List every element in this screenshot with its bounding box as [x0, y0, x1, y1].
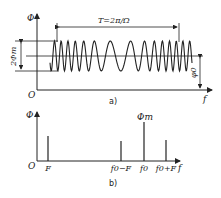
figure-a: Φ O f T=2π/Ω 2Φm φ0 a) — [9, 13, 212, 106]
period-label: T=2π/Ω — [98, 16, 130, 25]
spectral-line-label: f0 — [139, 164, 148, 173]
spectral-lines: Ff0−Ff0f0+F — [44, 122, 176, 173]
x-axis-label-b: f — [177, 163, 183, 173]
spectral-line-label: f0−F — [110, 164, 132, 173]
origin-label-a: O — [28, 90, 36, 100]
fm-spectrum-diagram: Φ O f T=2π/Ω 2Φm φ0 a) Φ O f Φm Ff0−Ff0f… — [0, 0, 221, 198]
caption-b: b) — [109, 179, 117, 188]
caption-a: a) — [109, 97, 117, 106]
offset-label: φ0 — [189, 67, 198, 78]
peak-label: Φm — [137, 112, 153, 122]
x-axis-label-a: f — [202, 94, 208, 104]
origin-label-b: O — [28, 161, 36, 171]
spectral-line-label: F — [44, 164, 51, 173]
y-axis-label-b: Φ — [26, 110, 33, 120]
figure-b: Φ O f Φm Ff0−Ff0f0+F b) — [26, 110, 183, 188]
spectral-line-label: f0+F — [155, 164, 177, 173]
amplitude-label: 2Φm — [9, 46, 18, 67]
y-axis-label-a: Φ — [27, 13, 34, 23]
